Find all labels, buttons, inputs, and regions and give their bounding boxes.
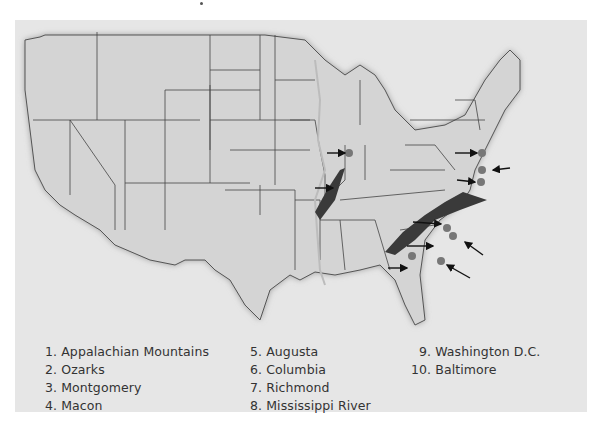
marker-richmond (477, 178, 485, 186)
marker-columbia (449, 232, 457, 240)
legend-item-ozarks: 2. Ozarks (45, 362, 105, 377)
arrow-icon (465, 242, 483, 255)
legend-item-richmond: 7. Richmond (250, 380, 330, 395)
marker-ozarks-north (345, 149, 353, 157)
marker-augusta (443, 224, 451, 232)
legend-item-macon: 4. Macon (45, 398, 103, 413)
marker-macon (437, 257, 445, 265)
marker-baltimore (478, 149, 486, 157)
marker-washington-dc (478, 166, 486, 174)
legend-item-washington-dc: 9. Washington D.C. (419, 344, 540, 359)
stray-mark (200, 2, 203, 5)
legend-item-montgomery: 3. Montgomery (45, 380, 141, 395)
arrow-icon (493, 168, 510, 170)
legend-item-baltimore: 10. Baltimore (411, 362, 497, 377)
legend-item-mississippi-river: 8. Mississippi River (250, 398, 371, 413)
us-outline (25, 35, 520, 325)
legend-item-augusta: 5. Augusta (250, 344, 318, 359)
legend-item-columbia: 6. Columbia (250, 362, 326, 377)
marker-montgomery (408, 252, 416, 260)
arrow-icon (447, 265, 470, 278)
legend-item-appalachian-mountains: 1. Appalachian Mountains (45, 344, 209, 359)
map-legend: 1. Appalachian Mountains 2. Ozarks 3. Mo… (15, 342, 587, 412)
us-map (15, 20, 587, 342)
